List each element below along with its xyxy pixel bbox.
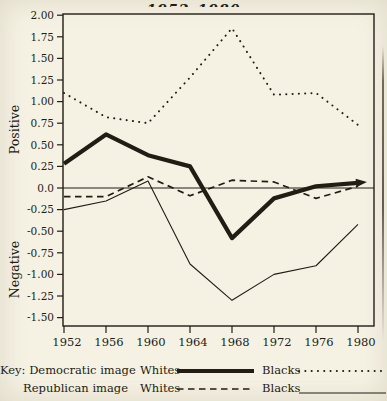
x-tick-label: 1952 [52,335,81,349]
y-tick-label: 1.50 [31,52,54,64]
series-end-arrowhead [356,179,367,187]
page-edge-shadow [382,46,384,340]
x-tick-label: 1976 [304,335,333,349]
y-tick-label: -1.50 [27,311,54,323]
key-democratic-whites-label: Whites [140,363,180,377]
key-row-democratic-image: Key: Democratic image Whites Blacks [0,363,387,379]
key-row-republican-image: Republican image Whites Blacks [0,381,387,397]
x-tick-label: 1968 [220,335,249,349]
y-tick-label: 2.00 [31,9,54,21]
y-tick-label: 1.00 [31,95,54,107]
dashed-line-swatch [176,382,255,397]
x-tick-label: 1956 [94,335,123,349]
y-tick-label: -1.25 [27,290,54,302]
dotted-line-swatch [298,364,387,379]
book-page-scan: 1952–1980 Positive Negative 2.001.751.50… [0,0,387,401]
plot-frame [63,14,374,326]
thick-solid-line-swatch [176,364,255,379]
key-group-democratic: Key: Democratic image [0,363,128,377]
y-tick-label: -0.25 [27,203,54,215]
x-tick-label: 1972 [262,335,291,349]
x-tick-label: 1964 [178,335,207,349]
x-tick-label: 1980 [346,335,375,349]
y-tick-label: 0.50 [31,139,54,151]
series-democratic-image-whites [64,134,358,238]
y-tick-label: -0.50 [27,225,54,237]
key-group-republican: Republican image [0,381,128,395]
key-democratic-blacks-label: Blacks [262,363,300,377]
chart-key: Key: Democratic image Whites Blacks Repu… [0,361,387,401]
y-tick-label: 0.75 [31,117,54,129]
y-tick-label: -1.00 [27,268,54,280]
y-tick-label: 0.0 [37,182,54,194]
party-image-line-chart: 2.001.751.501.251.000.750.500.250.0-0.25… [0,0,387,352]
y-tick-label: 1.75 [31,31,54,43]
key-label: Key: [0,363,25,377]
key-group-republican-label: Republican image [23,381,128,395]
y-tick-label: 0.25 [31,160,54,172]
key-republican-blacks-label: Blacks [262,381,300,395]
key-group-democratic-label: Democratic image [29,363,136,377]
y-tick-label: 1.25 [31,74,54,86]
key-republican-whites-label: Whites [140,381,180,395]
x-tick-label: 1960 [136,335,165,349]
thin-solid-line-swatch [298,382,387,397]
y-tick-label: -0.75 [27,247,54,259]
series-democratic-image-blacks [64,28,358,125]
